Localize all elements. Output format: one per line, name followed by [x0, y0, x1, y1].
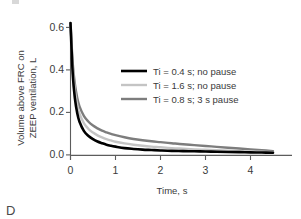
legend: Ti = 0.4 s; no pause Ti = 1.6 s; no paus… [121, 66, 238, 105]
x-tick-label-2: 2 [158, 164, 164, 176]
chart-canvas: Volume above FRC on ZEEP ventilation, L … [0, 0, 301, 219]
x-tick-label-3: 3 [203, 164, 209, 176]
x-tick-label-4: 4 [248, 164, 254, 176]
y-axis-title: Volume above FRC on ZEEP ventilation, L [15, 50, 38, 146]
figure-panel: Volume above FRC on ZEEP ventilation, L … [0, 0, 301, 219]
y-tick-label-0.2: 0.2 [49, 105, 64, 117]
y-tick-label-0.6: 0.6 [49, 21, 64, 33]
y-tick-label-0.4: 0.4 [49, 63, 64, 75]
y-tick-label-0.0: 0.0 [49, 148, 64, 160]
y-axis-title-line1: Volume above FRC on [15, 50, 26, 146]
x-tick-label-0: 0 [68, 164, 74, 176]
legend-label-ti-1.6-no-pause: Ti = 1.6 s; no pause [153, 80, 236, 91]
y-axis-title-line2: ZEEP ventilation, L [27, 58, 38, 139]
legend-label-ti-0.4-no-pause: Ti = 0.4 s; no pause [153, 66, 236, 77]
panel-label: D [6, 203, 15, 218]
legend-label-ti-0.8-3s-pause: Ti = 0.8 s; 3 s pause [153, 94, 238, 105]
x-tick-label-1: 1 [113, 164, 119, 176]
x-axis-title: Time, s [157, 185, 188, 196]
